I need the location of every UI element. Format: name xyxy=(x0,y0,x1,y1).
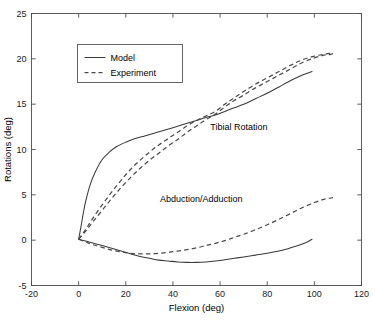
y-axis-title: Rotations (deg) xyxy=(2,117,13,182)
y-tick-label: 10 xyxy=(16,145,26,155)
y-tick-label: 20 xyxy=(16,54,26,64)
chart-annotations: Tibial RotationAbduction/Adduction xyxy=(160,122,268,204)
x-tick-label: -20 xyxy=(25,289,38,299)
series-line xyxy=(79,239,312,262)
x-tick-label: 0 xyxy=(76,289,81,299)
y-tick-label: 0 xyxy=(21,235,26,245)
axis-tick-labels: -20020406080100120-50510152025 xyxy=(16,9,369,299)
y-tick-label: 25 xyxy=(16,9,26,19)
annotation-label: Tibial Rotation xyxy=(210,122,267,132)
x-axis-title: Flexion (deg) xyxy=(169,302,224,313)
legend-label: Experiment xyxy=(111,68,157,78)
x-tick-label: 120 xyxy=(354,289,369,299)
x-tick-label: 40 xyxy=(168,289,178,299)
chart-figure: -20020406080100120-50510152025 Tibial Ro… xyxy=(0,0,375,325)
y-tick-label: -5 xyxy=(18,281,26,291)
y-tick-label: 5 xyxy=(21,190,26,200)
x-tick-label: 80 xyxy=(262,289,272,299)
x-tick-label: 60 xyxy=(215,289,225,299)
series-line xyxy=(79,72,312,240)
chart-legend: ModelExperiment xyxy=(78,45,183,83)
axis-titles: Flexion (deg)Rotations (deg) xyxy=(2,117,224,312)
annotation-label: Abduction/Adduction xyxy=(160,194,243,204)
x-tick-label: 100 xyxy=(307,289,322,299)
chart-plot-area: -20020406080100120-50510152025 Tibial Ro… xyxy=(0,0,375,325)
x-tick-label: 20 xyxy=(121,289,131,299)
data-series-layer xyxy=(79,53,336,262)
legend-label: Model xyxy=(111,53,136,63)
y-tick-label: 15 xyxy=(16,99,26,109)
